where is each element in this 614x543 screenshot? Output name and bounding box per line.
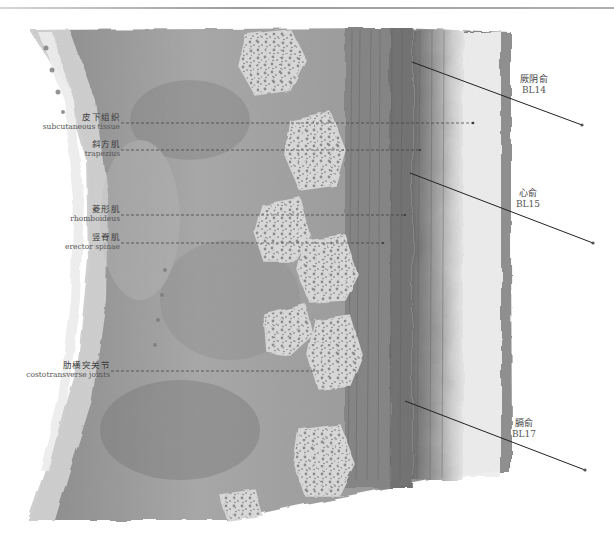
acupoint-code: BL15: [510, 199, 546, 210]
acupoint-code: BL17: [506, 429, 542, 440]
label-en: costotransverse joints: [26, 371, 110, 380]
acupoint-code: BL14: [516, 85, 552, 96]
label-en: trapezius: [85, 150, 120, 159]
acupoint-bl17: 膈俞 BL17: [506, 418, 542, 440]
label-en: erector spinae: [65, 243, 120, 252]
label-en: subcutaneous tissue: [43, 123, 120, 132]
acupoint-bl14: 厥阴俞 BL14: [516, 74, 552, 96]
label-erector-spinae: 竖脊肌 erector spinae: [65, 233, 120, 251]
label-costotransverse-joints: 肋横突关节 costotransverse joints: [26, 361, 110, 379]
label-subcutaneous-tissue: 皮下组织 subcutaneous tissue: [43, 113, 120, 131]
acupoint-zh: 厥阴俞: [516, 74, 552, 85]
label-rhomboideus: 菱形肌 rhomboideus: [70, 205, 120, 223]
label-en: rhomboideus: [70, 215, 120, 224]
label-trapezius: 斜方肌 trapezius: [85, 140, 120, 158]
acupoint-bl15: 心俞 BL15: [510, 188, 546, 210]
acupoint-zh: 膈俞: [506, 418, 542, 429]
acupoint-zh: 心俞: [510, 188, 546, 199]
